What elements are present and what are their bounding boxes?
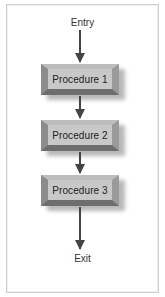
procedure-1-label: Procedure 1: [52, 74, 108, 85]
procedure-3-label: Procedure 3: [52, 185, 108, 196]
procedure-1-box: Procedure 1: [41, 64, 119, 95]
arrow-entry-to-procedure-1: [79, 30, 81, 62]
entry-label: Entry: [0, 17, 165, 28]
arrow-procedure-2-to-procedure-3: [79, 152, 81, 173]
procedure-2-box: Procedure 2: [41, 120, 119, 151]
arrow-procedure-1-to-procedure-2: [79, 96, 81, 118]
arrow-procedure-3-to-exit: [79, 207, 81, 249]
exit-label: Exit: [0, 253, 165, 264]
procedure-2-label: Procedure 2: [52, 130, 108, 141]
procedure-3-box: Procedure 3: [41, 175, 119, 206]
